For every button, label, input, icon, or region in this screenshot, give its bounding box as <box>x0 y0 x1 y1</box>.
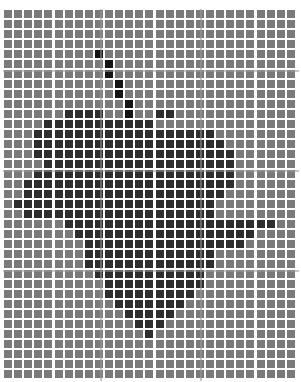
grid-cell[interactable] <box>145 180 153 188</box>
grid-cell[interactable] <box>186 190 194 198</box>
grid-cell[interactable] <box>206 300 214 308</box>
grid-cell[interactable] <box>226 130 234 138</box>
grid-cell[interactable] <box>287 240 295 248</box>
grid-cell[interactable] <box>287 20 295 28</box>
grid-cell[interactable] <box>267 130 275 138</box>
grid-cell[interactable] <box>125 220 133 228</box>
grid-cell[interactable] <box>105 230 113 238</box>
grid-cell[interactable] <box>105 100 113 108</box>
grid-cell[interactable] <box>226 250 234 258</box>
grid-cell[interactable] <box>34 30 42 38</box>
grid-cell[interactable] <box>186 140 194 148</box>
grid-cell[interactable] <box>85 110 93 118</box>
grid-cell[interactable] <box>145 60 153 68</box>
grid-cell[interactable] <box>287 370 295 378</box>
grid-cell[interactable] <box>236 160 244 168</box>
grid-cell[interactable] <box>44 40 52 48</box>
grid-cell[interactable] <box>125 250 133 258</box>
grid-cell[interactable] <box>85 160 93 168</box>
grid-cell[interactable] <box>287 220 295 228</box>
grid-cell[interactable] <box>105 40 113 48</box>
grid-cell[interactable] <box>156 210 164 218</box>
grid-cell[interactable] <box>65 30 73 38</box>
grid-cell[interactable] <box>44 300 52 308</box>
grid-cell[interactable] <box>115 350 123 358</box>
grid-cell[interactable] <box>277 300 285 308</box>
grid-cell[interactable] <box>186 300 194 308</box>
grid-cell[interactable] <box>216 10 224 18</box>
grid-cell[interactable] <box>226 290 234 298</box>
grid-cell[interactable] <box>24 110 32 118</box>
grid-cell[interactable] <box>55 20 63 28</box>
grid-cell[interactable] <box>14 80 22 88</box>
grid-cell[interactable] <box>257 60 265 68</box>
grid-cell[interactable] <box>246 230 254 238</box>
grid-cell[interactable] <box>115 260 123 268</box>
grid-cell[interactable] <box>176 230 184 238</box>
grid-cell[interactable] <box>75 160 83 168</box>
grid-cell[interactable] <box>216 180 224 188</box>
grid-cell[interactable] <box>115 80 123 88</box>
grid-cell[interactable] <box>105 80 113 88</box>
grid-cell[interactable] <box>65 190 73 198</box>
grid-cell[interactable] <box>206 320 214 328</box>
grid-cell[interactable] <box>257 30 265 38</box>
grid-cell[interactable] <box>156 10 164 18</box>
grid-cell[interactable] <box>145 120 153 128</box>
grid-cell[interactable] <box>236 90 244 98</box>
grid-cell[interactable] <box>216 230 224 238</box>
grid-cell[interactable] <box>246 220 254 228</box>
grid-cell[interactable] <box>246 80 254 88</box>
grid-cell[interactable] <box>4 30 12 38</box>
grid-cell[interactable] <box>115 10 123 18</box>
grid-cell[interactable] <box>277 60 285 68</box>
grid-cell[interactable] <box>24 20 32 28</box>
grid-cell[interactable] <box>216 280 224 288</box>
grid-cell[interactable] <box>135 280 143 288</box>
grid-cell[interactable] <box>176 210 184 218</box>
grid-cell[interactable] <box>287 310 295 318</box>
grid-cell[interactable] <box>115 60 123 68</box>
grid-cell[interactable] <box>145 130 153 138</box>
grid-cell[interactable] <box>75 180 83 188</box>
grid-cell[interactable] <box>55 240 63 248</box>
grid-cell[interactable] <box>34 350 42 358</box>
grid-cell[interactable] <box>115 100 123 108</box>
grid-cell[interactable] <box>145 230 153 238</box>
grid-cell[interactable] <box>85 120 93 128</box>
grid-cell[interactable] <box>166 180 174 188</box>
grid-cell[interactable] <box>277 40 285 48</box>
grid-cell[interactable] <box>105 130 113 138</box>
grid-cell[interactable] <box>65 340 73 348</box>
grid-cell[interactable] <box>216 100 224 108</box>
grid-cell[interactable] <box>34 210 42 218</box>
grid-cell[interactable] <box>44 150 52 158</box>
grid-cell[interactable] <box>226 80 234 88</box>
grid-cell[interactable] <box>105 10 113 18</box>
grid-cell[interactable] <box>75 290 83 298</box>
grid-cell[interactable] <box>176 280 184 288</box>
grid-cell[interactable] <box>55 290 63 298</box>
grid-cell[interactable] <box>65 310 73 318</box>
grid-cell[interactable] <box>176 360 184 368</box>
grid-cell[interactable] <box>176 310 184 318</box>
grid-cell[interactable] <box>216 200 224 208</box>
grid-cell[interactable] <box>85 290 93 298</box>
grid-cell[interactable] <box>135 100 143 108</box>
grid-cell[interactable] <box>246 120 254 128</box>
grid-cell[interactable] <box>257 140 265 148</box>
grid-cell[interactable] <box>176 130 184 138</box>
grid-cell[interactable] <box>145 300 153 308</box>
grid-cell[interactable] <box>277 140 285 148</box>
grid-cell[interactable] <box>105 60 113 68</box>
grid-cell[interactable] <box>277 370 285 378</box>
grid-cell[interactable] <box>145 160 153 168</box>
grid-cell[interactable] <box>75 10 83 18</box>
grid-cell[interactable] <box>34 370 42 378</box>
grid-cell[interactable] <box>166 320 174 328</box>
grid-cell[interactable] <box>267 250 275 258</box>
grid-cell[interactable] <box>55 110 63 118</box>
grid-cell[interactable] <box>216 330 224 338</box>
grid-cell[interactable] <box>65 350 73 358</box>
grid-cell[interactable] <box>14 20 22 28</box>
